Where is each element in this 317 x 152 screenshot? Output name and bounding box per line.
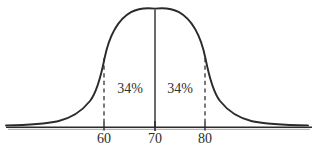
axis-tick-label-70: 70	[138, 132, 172, 146]
region-percent-label-right: 34%	[160, 82, 200, 96]
bell-curve-canvas	[0, 0, 317, 152]
axis-tick-label-80: 80	[188, 132, 222, 146]
horizontal-axis	[6, 127, 312, 129]
bell-curve-path	[6, 8, 308, 125]
region-percent-label-left: 34%	[110, 82, 150, 96]
axis-tick-label-60: 60	[87, 132, 121, 146]
normal-distribution-figure: 34% 34% 60 70 80	[0, 0, 317, 152]
